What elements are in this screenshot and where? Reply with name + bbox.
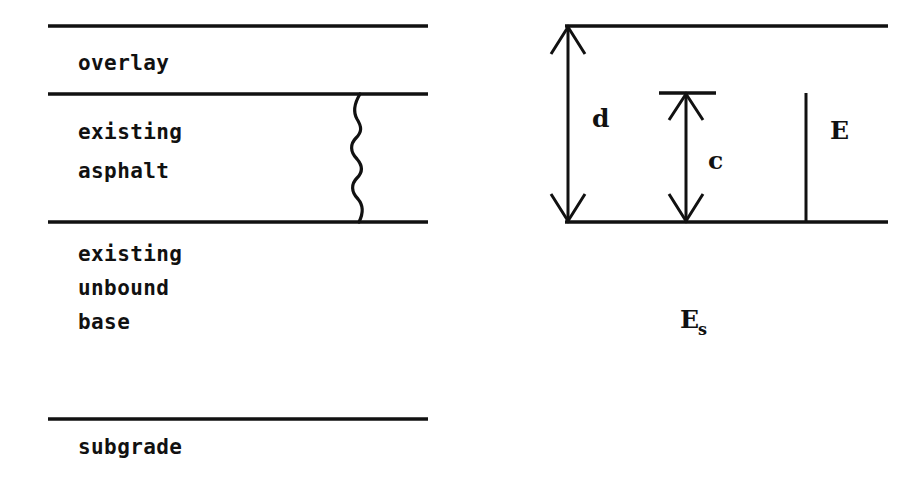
diagram-canvas: overlay existing asphalt existing unboun… — [0, 0, 923, 485]
reflective-crack-icon — [352, 94, 363, 222]
modulus-label-e: E — [830, 116, 849, 145]
dimension-label-c: c — [708, 146, 723, 175]
modulus-indicator-e: E — [806, 93, 849, 222]
pavement-cross-section-group: overlay existing asphalt existing unboun… — [48, 26, 428, 459]
dimension-arrow-d: d — [551, 26, 609, 222]
dimension-label-d: d — [592, 104, 609, 133]
layer-label-subgrade: subgrade — [78, 435, 182, 459]
layer-label-existing-unbound-base-line1: existing — [78, 242, 182, 266]
modulus-label-es-subscript: s — [698, 320, 707, 339]
dimension-arrow-c: c — [659, 93, 723, 222]
layer-label-existing-unbound-base-line2: unbound — [78, 276, 169, 300]
layer-label-existing-asphalt-line2: asphalt — [78, 159, 169, 183]
layer-label-overlay: overlay — [78, 51, 169, 75]
layer-label-existing-asphalt-line1: existing — [78, 120, 182, 144]
pavement-diagram-figure: overlay existing asphalt existing unboun… — [0, 0, 923, 485]
modulus-label-es: E — [680, 305, 699, 334]
modulus-indicator-es: E s — [680, 305, 707, 339]
layer-label-existing-unbound-base-line3: base — [78, 310, 130, 334]
equivalent-stiffness-model-group: d c E E s — [551, 26, 888, 339]
